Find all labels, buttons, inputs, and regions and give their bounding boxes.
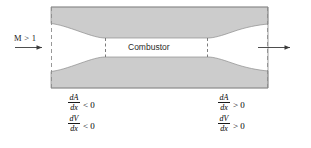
outlet-flow-arrow — [258, 45, 290, 50]
combustor-label: Combustor — [128, 42, 170, 52]
upper-wall-region — [51, 7, 268, 38]
fraction-denominator: dx — [69, 103, 79, 112]
fraction-dA-dx: dA dx — [218, 94, 230, 112]
converging-section-derivatives: dA dx < 0 dV dx < 0 — [68, 92, 95, 134]
derivative-row: dA dx < 0 — [68, 92, 95, 113]
derivative-row: dV dx > 0 — [218, 113, 245, 134]
inlet-flow-arrow — [15, 45, 42, 50]
fraction-dV-dx: dV dx — [218, 115, 230, 133]
duct-diagram — [0, 0, 311, 148]
fraction-denominator: dx — [219, 124, 229, 133]
fraction-numerator: dV — [219, 115, 230, 124]
derivative-row: dV dx < 0 — [68, 113, 95, 134]
fraction-dA-dx: dA dx — [68, 94, 80, 112]
fraction-numerator: dV — [69, 115, 80, 124]
relation-operator: < 0 — [83, 100, 95, 110]
combustor-duct-figure: M > 1 Combustor dA dx < 0 dV dx < 0 dA — [0, 0, 311, 148]
derivative-row: dA dx > 0 — [218, 92, 245, 113]
relation-operator: < 0 — [83, 121, 95, 131]
diverging-section-derivatives: dA dx > 0 dV dx > 0 — [218, 92, 245, 134]
relation-operator: > 0 — [233, 100, 245, 110]
fraction-numerator: dA — [69, 94, 80, 103]
fraction-dV-dx: dV dx — [68, 115, 80, 133]
fraction-denominator: dx — [69, 124, 79, 133]
relation-operator: > 0 — [233, 121, 245, 131]
lower-wall-region — [51, 57, 268, 88]
fraction-numerator: dA — [219, 94, 230, 103]
inlet-mach-label: M > 1 — [14, 33, 36, 43]
fraction-denominator: dx — [219, 103, 229, 112]
